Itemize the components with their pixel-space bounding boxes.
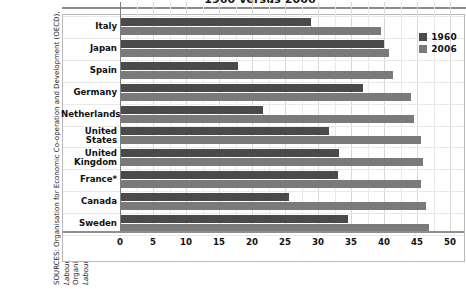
legend-swatch-icon <box>419 45 427 53</box>
legend-item: 2006 <box>419 43 457 54</box>
x-axis-tick-labels: 05101520253035404550 <box>120 237 464 251</box>
bar-group: Italy <box>120 16 464 38</box>
bar-group: Spain <box>120 60 464 82</box>
category-label: Sweden <box>61 219 117 228</box>
x-tick-label: 40 <box>378 237 390 247</box>
bar-1960 <box>120 193 289 201</box>
bar-1960 <box>120 171 338 179</box>
legend-swatch-icon <box>419 33 427 41</box>
bar-group: Netherlands <box>120 104 464 126</box>
page-title: 1960 versus 2006 <box>110 0 410 6</box>
bar-group: Germany <box>120 82 464 104</box>
bar-2006 <box>120 49 389 57</box>
bar-1960 <box>120 62 238 70</box>
bar-1960 <box>120 127 329 135</box>
gridline-horizontal <box>63 235 464 236</box>
chart-frame: ItalyJapanSpainGermanyNetherlandsUnitedS… <box>62 14 465 262</box>
bar-2006 <box>120 136 421 144</box>
x-tick-label: 20 <box>246 237 258 247</box>
category-label: Canada <box>61 197 117 206</box>
source-note: SOURCES: Organisation for Economic Co-op… <box>0 0 58 289</box>
bar-1960 <box>120 106 263 114</box>
bar-2006 <box>120 27 381 35</box>
x-tick-label: 25 <box>279 237 291 247</box>
bar-2006 <box>120 202 426 210</box>
bar-group: Japan <box>120 38 464 60</box>
x-axis-line <box>63 231 464 233</box>
x-tick-label: 10 <box>180 237 192 247</box>
legend-label: 1960 <box>431 32 457 42</box>
plot-area: ItalyJapanSpainGermanyNetherlandsUnitedS… <box>120 16 464 233</box>
category-label: Germany <box>61 88 117 97</box>
bar-1960 <box>120 18 311 26</box>
legend-label: 2006 <box>431 44 457 54</box>
bar-1960 <box>120 84 363 92</box>
title-divider <box>62 7 466 9</box>
x-tick-label: 45 <box>411 237 423 247</box>
bar-group: UnitedStates <box>120 126 464 148</box>
bar-group: Canada <box>120 191 464 213</box>
bar-2006 <box>120 158 423 166</box>
x-tick-label: 0 <box>117 237 123 247</box>
category-label: Spain <box>61 66 117 75</box>
legend-item: 1960 <box>419 31 457 42</box>
category-label: UnitedKingdom <box>61 149 117 167</box>
category-label: UnitedStates <box>61 127 117 145</box>
bar-2006 <box>120 71 393 79</box>
bar-rows: ItalyJapanSpainGermanyNetherlandsUnitedS… <box>120 16 464 233</box>
chart-page: 1960 versus 2006 SOURCES: Organisation f… <box>0 0 466 289</box>
bar-1960 <box>120 40 384 48</box>
bar-2006 <box>120 115 414 123</box>
source-prefix: SOURCES: Organisation for Economic Co-op… <box>52 12 61 285</box>
category-label: Japan <box>61 44 117 53</box>
category-label: Netherlands <box>61 110 117 119</box>
bar-group: UnitedKingdom <box>120 147 464 169</box>
category-label: France* <box>61 175 117 184</box>
bar-2006 <box>120 93 411 101</box>
x-tick-label: 15 <box>213 237 225 247</box>
x-tick-label: 35 <box>345 237 357 247</box>
x-tick-label: 30 <box>312 237 324 247</box>
bar-2006 <box>120 180 421 188</box>
y-axis-line <box>120 2 121 233</box>
category-label: Italy <box>61 22 117 31</box>
chart-legend: 19602006 <box>419 31 457 55</box>
bar-group: France* <box>120 169 464 191</box>
x-tick-label: 5 <box>150 237 156 247</box>
x-tick-label: 50 <box>444 237 456 247</box>
bar-1960 <box>120 215 348 223</box>
bar-1960 <box>120 149 339 157</box>
